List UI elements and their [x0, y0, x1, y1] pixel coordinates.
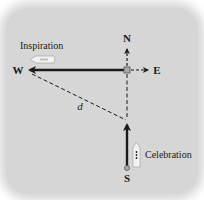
origin-marker [124, 67, 130, 73]
south-label: S [124, 172, 130, 184]
east-label: E [153, 64, 160, 76]
north-label: N [123, 32, 131, 44]
south-start-marker [125, 166, 130, 171]
celebration-label: Celebration [145, 149, 192, 160]
ships-distance-diagram: N E W d S Inspiration Celebration [0, 0, 204, 200]
west-label: W [13, 64, 24, 76]
inspiration-label: Inspiration [20, 40, 63, 51]
inspiration-ship-icon [30, 56, 55, 63]
distance-label: d [77, 100, 83, 112]
celebration-ship-icon [133, 142, 140, 167]
distance-line [32, 74, 126, 120]
